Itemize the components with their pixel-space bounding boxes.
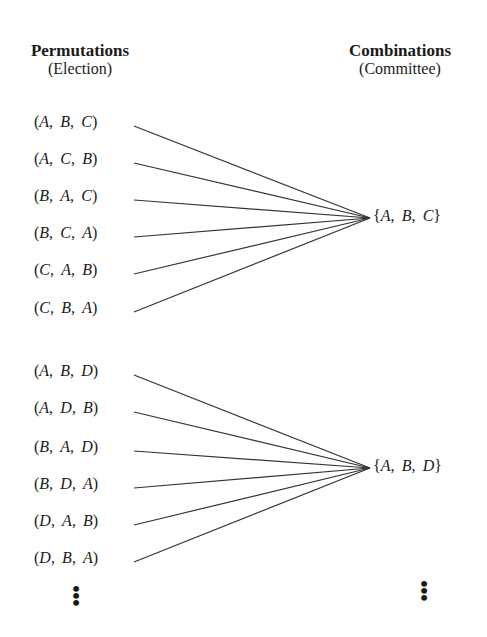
permutation-label: (A, C, B) — [34, 150, 97, 168]
permutation-label: (B, C, A) — [34, 224, 97, 242]
permutation-label: (B, D, A) — [34, 475, 98, 493]
mapping-line — [134, 468, 370, 562]
continuation-dots-right: ••• — [419, 580, 429, 601]
mapping-line — [134, 468, 370, 488]
permutation-label: (A, B, D) — [34, 362, 98, 380]
combination-label: {A, B, C} — [373, 207, 441, 225]
mapping-line — [134, 126, 370, 218]
permutation-label: (B, A, D) — [34, 438, 98, 456]
permutation-label: (C, A, B) — [34, 261, 97, 279]
continuation-dots-left: ••• — [71, 585, 81, 606]
combination-label: {A, B, D} — [373, 457, 442, 475]
mapping-line — [134, 163, 370, 218]
mapping-line — [134, 200, 370, 218]
mapping-line — [134, 468, 370, 525]
mapping-line — [134, 218, 370, 237]
permutation-label: (A, B, C) — [34, 113, 97, 131]
permutation-label: (A, D, B) — [34, 399, 98, 417]
mapping-lines — [0, 0, 487, 637]
permutation-label: (B, A, C) — [34, 187, 97, 205]
permutation-label: (D, A, B) — [34, 512, 98, 530]
permutation-label: (C, B, A) — [34, 299, 97, 317]
permutation-label: (D, B, A) — [34, 549, 98, 567]
